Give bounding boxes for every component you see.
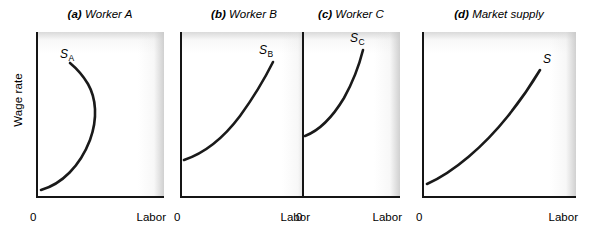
panel-title-text-c: Worker C bbox=[335, 8, 384, 20]
supply-curve-c bbox=[302, 32, 400, 198]
x-axis-label-c: Labor bbox=[373, 211, 402, 223]
curve-label-c: SC bbox=[350, 32, 364, 44]
plot-area-market-supply: S bbox=[422, 32, 576, 198]
curve-label-a: SA bbox=[60, 48, 74, 60]
panel-worker-c: (c) Worker C SC 0 Labor bbox=[302, 0, 400, 237]
origin-label-a: 0 bbox=[30, 211, 36, 223]
panel-tag-b: (b) bbox=[211, 8, 226, 20]
curve-label-b: SB bbox=[259, 44, 273, 56]
origin-label-b: 0 bbox=[174, 211, 180, 223]
curve-label-a-main: S bbox=[60, 47, 68, 61]
plot-area-worker-a: SA bbox=[36, 32, 164, 198]
y-axis-label-text: Wage rate bbox=[12, 73, 24, 127]
curve-label-market-main: S bbox=[543, 52, 551, 66]
panel-tag-a: (a) bbox=[68, 8, 82, 20]
curve-label-b-main: S bbox=[259, 43, 267, 57]
panel-market-supply: (d) Market supply S 0 Labor bbox=[422, 0, 576, 237]
origin-label-d: 0 bbox=[416, 211, 422, 223]
curve-label-b-sub: B bbox=[267, 49, 273, 59]
panel-title-text-b: Worker B bbox=[229, 8, 277, 20]
panel-title-market-supply: (d) Market supply bbox=[422, 8, 576, 20]
panel-worker-a: (a) Worker A SA 0 Labor bbox=[36, 0, 164, 237]
x-axis-label-d: Labor bbox=[549, 211, 578, 223]
panel-worker-b: (b) Worker B SB 0 Labor bbox=[180, 0, 308, 237]
plot-area-worker-c: SC bbox=[302, 32, 400, 198]
supply-curve-a bbox=[36, 32, 164, 198]
panel-title-worker-a: (a) Worker A bbox=[36, 8, 164, 20]
curve-label-c-main: S bbox=[350, 31, 358, 45]
supply-curve-b bbox=[180, 32, 308, 198]
origin-label-c: 0 bbox=[296, 211, 302, 223]
panel-title-worker-c: (c) Worker C bbox=[302, 8, 400, 20]
supply-curve-market bbox=[422, 32, 576, 198]
curve-label-c-sub: C bbox=[358, 37, 364, 47]
panel-title-text-a: Worker A bbox=[85, 8, 133, 20]
panel-title-text-d: Market supply bbox=[472, 8, 544, 20]
panel-tag-d: (d) bbox=[454, 8, 469, 20]
figure-root: Wage rate (a) Worker A SA 0 Labor (b) Wo… bbox=[0, 0, 596, 237]
x-axis-label-a: Labor bbox=[137, 211, 166, 223]
panel-tag-c: (c) bbox=[318, 8, 332, 20]
curve-label-market: S bbox=[543, 53, 551, 65]
y-axis-label: Wage rate bbox=[4, 0, 32, 200]
curve-label-a-sub: A bbox=[68, 53, 74, 63]
plot-area-worker-b: SB bbox=[180, 32, 308, 198]
panel-title-worker-b: (b) Worker B bbox=[180, 8, 308, 20]
